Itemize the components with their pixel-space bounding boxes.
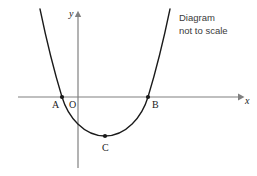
- parabola-curve: [40, 9, 170, 136]
- point-b-marker: [146, 95, 150, 99]
- point-c-label: C: [102, 143, 109, 153]
- diagram-note-line-1: Diagram: [179, 11, 215, 24]
- point-a-marker: [60, 95, 64, 99]
- origin-label: O: [69, 100, 76, 110]
- point-a-label: A: [52, 100, 59, 110]
- diagram-note-line-2: not to scale: [179, 24, 228, 37]
- point-c-marker: [103, 134, 107, 138]
- y-axis-label: y: [69, 9, 73, 19]
- y-axis-arrowhead: [75, 11, 81, 17]
- point-b-label: B: [152, 100, 159, 110]
- x-axis-arrowhead: [238, 94, 245, 101]
- x-axis-label: x: [245, 96, 249, 106]
